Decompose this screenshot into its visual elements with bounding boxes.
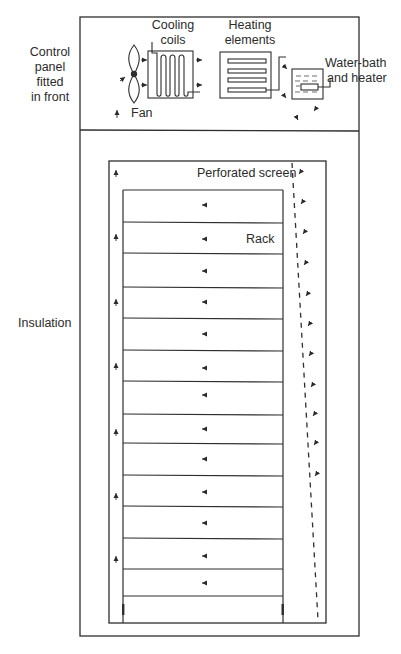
cooling-coils-icon bbox=[148, 42, 200, 98]
panel-divider bbox=[80, 130, 359, 131]
rack-foot-left bbox=[122, 604, 124, 615]
water-bath-label: Water-bath and heater bbox=[325, 56, 387, 86]
rack bbox=[123, 190, 283, 623]
heat-out-arrow-1 bbox=[283, 65, 287, 69]
supply-airflow-arrows bbox=[299, 170, 318, 476]
fan-label: Fan bbox=[131, 106, 153, 121]
bath-out-arrow-2 bbox=[296, 116, 298, 120]
inner-chamber bbox=[109, 161, 326, 623]
shelf-airflow-arrows bbox=[202, 205, 207, 583]
heat-out-arrow-2 bbox=[283, 94, 286, 98]
perforated-screen-label: Perforated screen bbox=[197, 166, 296, 181]
insulation-label: Insulation bbox=[18, 316, 72, 331]
outer-cabinet bbox=[80, 17, 359, 636]
rack-foot-right bbox=[282, 604, 284, 615]
control-panel-label: Control panel fitted in front bbox=[18, 45, 82, 105]
bath-out-arrow-1 bbox=[314, 107, 317, 111]
cooling-coils-label: Cooling coils bbox=[150, 18, 196, 48]
fan-tilt-arrow bbox=[120, 77, 125, 81]
heating-elements-icon bbox=[220, 52, 286, 98]
rack-label: Rack bbox=[246, 232, 274, 247]
fan-icon bbox=[129, 45, 140, 103]
heating-elements-label: Heating elements bbox=[218, 18, 282, 48]
